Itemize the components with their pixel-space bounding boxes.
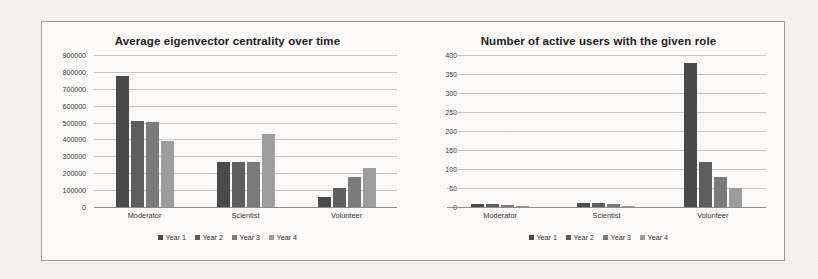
x-tick-label: Volunteer — [315, 211, 379, 220]
screenshot-canvas: Average eigenvector centrality over time… — [0, 0, 818, 279]
bar — [262, 134, 275, 207]
y-axis-labels-left: 0100000200000300000400000500000600000700… — [44, 55, 90, 207]
legend-swatch-icon — [269, 235, 274, 240]
x-axis-labels-right: ModeratorScientistVolunteer — [447, 211, 766, 220]
legend-label: Year 1 — [165, 233, 186, 242]
bar-groups-right — [447, 55, 766, 207]
y-tick-label: 500000 — [63, 118, 86, 127]
bar — [516, 206, 529, 207]
legend-label: Year 4 — [648, 233, 669, 242]
bar — [217, 162, 230, 207]
bar — [318, 197, 331, 207]
legend-label: Year 1 — [536, 233, 557, 242]
y-tick-label: 700000 — [63, 84, 86, 93]
legend-swatch-icon — [603, 235, 608, 240]
legend-label: Year 3 — [611, 233, 632, 242]
x-tick-label: Moderator — [113, 211, 177, 220]
y-tick-label: 600000 — [63, 101, 86, 110]
bar — [116, 76, 129, 207]
bar — [161, 141, 174, 207]
y-tick-label: 900000 — [63, 51, 86, 60]
x-tick-label: Scientist — [574, 211, 638, 220]
y-tick-label: 0 — [82, 203, 86, 212]
bar — [592, 203, 605, 207]
plot-area-right: 050100150200250300350400 — [447, 55, 766, 207]
legend-item[interactable]: Year 4 — [269, 233, 297, 242]
bar — [729, 188, 742, 207]
legend-item[interactable]: Year 2 — [566, 233, 594, 242]
legend-swatch-icon — [640, 235, 645, 240]
legend-label: Year 4 — [277, 233, 298, 242]
legend-item[interactable]: Year 2 — [195, 233, 223, 242]
bar-group — [116, 55, 174, 207]
bar — [363, 168, 376, 207]
legend-label: Year 2 — [573, 233, 594, 242]
y-tick-label: 800000 — [63, 67, 86, 76]
bar — [333, 188, 346, 207]
legend-swatch-icon — [195, 235, 200, 240]
legend-item[interactable]: Year 3 — [603, 233, 631, 242]
bar-groups-left — [94, 55, 397, 207]
chart-panel-left: Average eigenvector centrality over time… — [42, 22, 413, 260]
bar-group — [577, 55, 635, 207]
bar-group — [318, 55, 376, 207]
bar — [699, 162, 712, 207]
bar — [486, 204, 499, 207]
legend-left: Year 1Year 2Year 3Year 4 — [42, 233, 413, 242]
plot-area-left: 0100000200000300000400000500000600000700… — [94, 55, 397, 207]
bar — [131, 121, 144, 207]
legend-swatch-icon — [232, 235, 237, 240]
bar — [607, 204, 620, 207]
x-axis-labels-left: ModeratorScientistVolunteer — [94, 211, 397, 220]
y-tick-label: 100000 — [63, 186, 86, 195]
legend-item[interactable]: Year 4 — [640, 233, 668, 242]
bar — [684, 63, 697, 207]
legend-item[interactable]: Year 3 — [232, 233, 260, 242]
x-axis-line — [447, 207, 766, 208]
bar — [146, 122, 159, 207]
bar-group — [684, 55, 742, 207]
bar — [501, 205, 514, 207]
legend-swatch-icon — [566, 235, 571, 240]
x-tick-label: Volunteer — [681, 211, 745, 220]
chart-panel-right: Number of active users with the given ro… — [413, 22, 784, 260]
bar-group — [217, 55, 275, 207]
legend-item[interactable]: Year 1 — [158, 233, 186, 242]
y-tick-label: 400000 — [63, 135, 86, 144]
x-axis-line — [94, 207, 397, 208]
bar-group — [471, 55, 529, 207]
bar — [232, 162, 245, 207]
figure-frame: Average eigenvector centrality over time… — [41, 21, 785, 261]
chart-title-right: Number of active users with the given ro… — [413, 22, 784, 47]
legend-item[interactable]: Year 1 — [529, 233, 557, 242]
bar — [247, 162, 260, 207]
legend-right: Year 1Year 2Year 3Year 4 — [413, 233, 784, 242]
x-tick-label: Moderator — [468, 211, 532, 220]
chart-title-left: Average eigenvector centrality over time — [42, 22, 413, 47]
bar — [714, 177, 727, 207]
legend-swatch-icon — [158, 235, 163, 240]
y-tick-label: 300000 — [63, 152, 86, 161]
x-tick-label: Scientist — [214, 211, 278, 220]
legend-label: Year 3 — [240, 233, 261, 242]
bar — [348, 177, 361, 207]
bar — [471, 204, 484, 207]
y-tick-label: 200000 — [63, 169, 86, 178]
bar — [622, 206, 635, 207]
bar — [577, 203, 590, 207]
legend-swatch-icon — [529, 235, 534, 240]
legend-label: Year 2 — [202, 233, 223, 242]
